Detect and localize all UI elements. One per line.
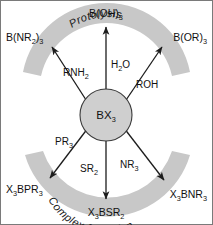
product-label-x3bpr3: X3BPR3 <box>6 183 43 198</box>
reagent-label-h2o: H2O <box>111 59 130 73</box>
reagent-label-nr3: NR3 <box>120 159 139 173</box>
reagent-label-roh: ROH <box>136 79 158 90</box>
arrow-amine-complex <box>124 128 164 180</box>
product-label-x3bsr2: X3BSR2 <box>88 206 125 221</box>
product-label-x3bnr3: X3BNR3 <box>170 188 207 203</box>
reaction-diagram: BX3 Protolysis Complex formation B(OH)3 … <box>0 0 213 225</box>
reagent-label-sr2: SR2 <box>80 163 98 177</box>
diagram-canvas: BX3 Protolysis Complex formation B(OH)3 … <box>0 0 213 225</box>
reagent-label-rnh2: RNH2 <box>63 67 89 81</box>
arrow-alcohol-protolysis <box>124 47 162 103</box>
reagent-label-pr3: PR3 <box>55 136 73 150</box>
